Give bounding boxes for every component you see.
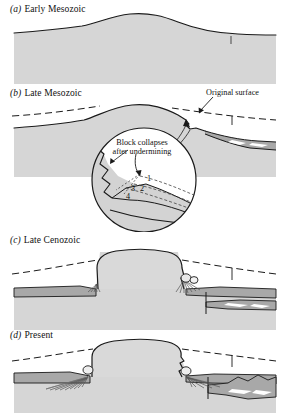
original-surface-leader-arrow [200,97,213,111]
panel-b-letter: (b) [10,88,21,98]
block-collapse-line-2: after undermining [104,147,180,156]
block-collapse-line-1: Block collapses [104,138,180,147]
panel-a-bedrock [14,14,276,84]
inset-stage-number-3: 3 [131,184,135,193]
panel-b-graphic [0,84,289,232]
panel-d-dashed-right [182,349,276,361]
panel-d-mesa [92,339,184,377]
panel-b-original-surface-dashed [12,106,100,116]
panel-d-letter: (d) [10,330,21,340]
panel-d-boulder-right [181,367,191,375]
panel-d-boulder-left [83,366,93,374]
panel-c-late-cenozoic: (c)Late Cenozoic [0,232,289,330]
panel-a-label: (a)Early Mesozoic [10,4,86,14]
panel-d-present: (d)Present [0,327,289,413]
geological-cross-section-figure: (a)Early Mesozoic [0,0,289,413]
panel-c-label: (c)Late Cenozoic [10,235,80,245]
panel-c-boulder-2 [190,277,198,284]
panel-b-late-mesozoic: (b)Late Mesozoic Original surface Block … [0,84,289,232]
panel-d-label: (d)Present [10,330,53,340]
panel-a-letter: (a) [10,4,21,14]
panel-d-title: Present [21,330,53,340]
panel-c-mesa [97,249,184,289]
panel-c-letter: (c) [10,235,21,245]
panel-a-title: Early Mesozoic [21,4,85,14]
inset-stage-number-2: 2 [140,184,144,193]
panel-b-label: (b)Late Mesozoic [10,88,82,98]
original-surface-annotation: Original surface [206,88,259,97]
panel-c-graphic [0,232,289,330]
block-collapse-annotation: Block collapses after undermining [104,138,180,157]
panel-c-boulder-1 [181,274,191,282]
inset-stage-number-1: 1 [147,174,151,183]
panel-b-original-surface-dashed-right [172,108,276,120]
panel-c-sediment-left [14,286,96,297]
panel-c-dashed-left [12,260,98,274]
original-surface-text: Original surface [206,88,259,97]
panel-a-early-mesozoic: (a)Early Mesozoic [0,0,289,84]
panel-c-dashed-right [182,260,276,274]
inset-stage-number-4: 4 [126,192,130,201]
panel-d-dashed-left [12,349,93,361]
panel-c-title: Late Cenozoic [21,235,80,245]
panel-b-title: Late Mesozoic [21,88,81,98]
original-surface-arrowhead [199,108,204,114]
